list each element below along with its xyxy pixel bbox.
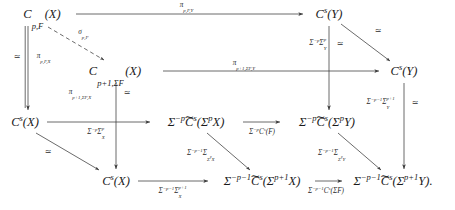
node-mid-top-left: Cp+1,ΣF(X) — [89, 65, 141, 78]
node-mid-top-right: Cs(Y) — [391, 65, 418, 78]
label-sigma-mp1-sigma-p1-Y: Σ−p−1Σp+1Y — [366, 99, 399, 106]
label-sigma-p-F: σp,F — [78, 29, 94, 36]
tilde-accent-icon: ∼ — [250, 171, 260, 183]
label-sigma-mp1-Sigma-SpY: Σ−p−1ΣΣpY — [318, 150, 354, 157]
tilde-accent-icon: ∼ — [380, 171, 390, 183]
label-sigma-mp-Cs-F: Σ−pCs(F) — [249, 129, 275, 136]
iso-mark-diag-top-right: ≃ — [375, 27, 382, 35]
label-sigma-mp1-sigma-p1-X: Σ−p−1Σp+1X — [158, 188, 191, 195]
tilde-accent-icon: ∼ — [316, 112, 326, 124]
node-back-top-right: Cs(Y) — [316, 8, 343, 21]
commutative-diagram: Cp,F(X) Cs(Y) Cp+1,ΣF(X) Cs(Y) Cs(X) Σ−p… — [0, 0, 455, 210]
iso-mark-sigma-p-Y: ≃ — [337, 40, 344, 48]
iso-mark-diag-bot-left: ≃ — [45, 148, 52, 156]
C-with-tilde: ∼C — [381, 175, 389, 188]
node-front-bottom-mid: Σ−p−1∼Cs(Σp+1X) — [224, 175, 301, 188]
label-sigma-mp1-Sigma-SpX: Σ−p−1ΣΣpX — [187, 150, 223, 157]
iso-mark-left-outer: ≃ — [14, 53, 21, 61]
label-sigma-mp-sigma-p-X: Σ−pΣpX — [87, 129, 106, 136]
node-front-bottom-left: Cs(X) — [102, 175, 130, 188]
terminal-period: . — [429, 174, 432, 188]
label-sigma-mp-sigma-p-Y: Σ−pΣpY — [309, 40, 328, 47]
C-with-tilde: ∼C — [251, 175, 259, 188]
node-symbol-C: C — [89, 64, 97, 78]
label-pi-p1-SF-X: πp+1,ΣF,X — [69, 89, 104, 96]
node-front-bottom-right: Σ−p−1∼Cs(Σp+1Y). — [353, 175, 432, 188]
C-with-tilde: ∼C — [185, 116, 193, 129]
label-pi-p1-SF-Y: πp+1,ΣF,Y — [233, 60, 268, 67]
node-back-bottom-left: Cs(X) — [11, 116, 39, 129]
tilde-accent-icon: ∼ — [184, 112, 194, 124]
arrow-diag-top-right-iso — [341, 24, 390, 61]
label-sigma-mp1-Cs-SF: Σ−p−1Cs(ΣF) — [308, 188, 344, 195]
label-pi-p-F-X: πp,F,X — [37, 53, 58, 60]
iso-mark-pi-p1-SF-X: ≃ — [124, 89, 131, 97]
label-pi-p-F-Y: πp,F,Y — [180, 2, 201, 9]
node-back-top-left: Cp,F(X) — [23, 8, 60, 21]
node-symbol-C: C — [23, 7, 31, 21]
C-with-tilde: ∼C — [316, 116, 324, 129]
node-back-bottom-right: Σ−p∼Cs(ΣpY) — [299, 116, 355, 129]
node-back-bottom-mid: Σ−p∼Cs(ΣpX) — [168, 116, 225, 129]
iso-mark-sigma-p1-Y: ≃ — [412, 99, 419, 107]
